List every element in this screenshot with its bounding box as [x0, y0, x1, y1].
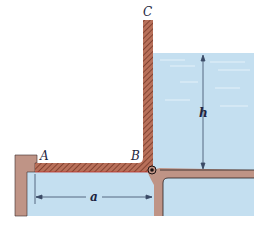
gate-diagram: A B C h a — [0, 0, 269, 230]
gate-arm-AB — [35, 163, 149, 172]
label-a: a — [90, 190, 98, 204]
hinge-pin — [150, 168, 154, 172]
gate-arm-BC — [143, 20, 153, 170]
label-A: A — [39, 149, 49, 163]
label-B: B — [130, 149, 140, 163]
label-C: C — [143, 5, 152, 19]
label-h: h — [199, 106, 208, 120]
